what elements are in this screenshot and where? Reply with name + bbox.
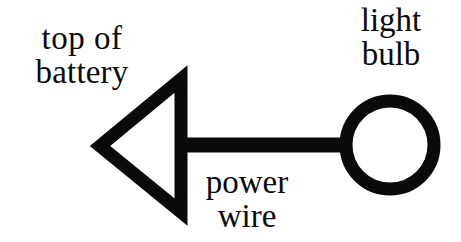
label-light-bulb: light bulb <box>336 4 446 71</box>
label-top-of-battery-line1: top of <box>8 22 156 56</box>
diagram-canvas: top of battery light bulb power wire <box>0 0 461 242</box>
label-top-of-battery: top of battery <box>8 22 156 89</box>
label-light-bulb-line1: light <box>336 4 446 38</box>
label-power-wire: power wire <box>188 166 306 233</box>
label-power-wire-line2: wire <box>188 200 306 234</box>
label-power-wire-line1: power <box>188 166 306 200</box>
label-light-bulb-line2: bulb <box>336 38 446 72</box>
label-top-of-battery-line2: battery <box>8 56 156 90</box>
